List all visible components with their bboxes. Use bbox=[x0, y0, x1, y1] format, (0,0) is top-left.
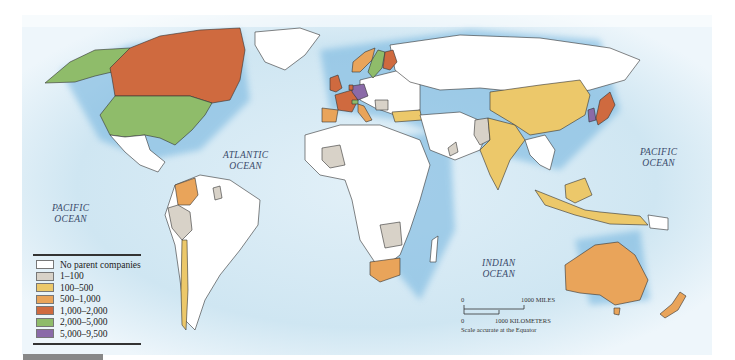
legend-item: No parent companies bbox=[33, 259, 141, 271]
region-tasmania bbox=[614, 308, 620, 315]
legend-item: 5,000–9,500 bbox=[33, 328, 141, 340]
legend-item: 1,000–2,000 bbox=[33, 305, 141, 317]
map-legend: No parent companies 1–100 100–500 500–1,… bbox=[33, 254, 141, 345]
ocean-label-pacific-east: PACIFIC OCEAN bbox=[640, 147, 677, 169]
scale-zero-miles: 0 bbox=[461, 296, 464, 303]
region-switzerland bbox=[352, 100, 358, 104]
scale-zero-km: 0 bbox=[461, 317, 464, 324]
legend-swatch bbox=[36, 306, 54, 315]
scale-bar-lines bbox=[463, 304, 525, 316]
ocean-label-line: OCEAN bbox=[482, 269, 515, 280]
legend-label: 1,000–2,000 bbox=[60, 306, 108, 316]
region-spain bbox=[322, 108, 338, 122]
legend-swatch bbox=[36, 260, 54, 269]
scale-bar: 0 1000 MILES 0 1000 KILOMETERS Scale acc… bbox=[461, 296, 571, 336]
ocean-label-line: PACIFIC bbox=[640, 147, 677, 158]
footer-bar bbox=[23, 354, 103, 360]
region-papua bbox=[648, 215, 668, 230]
legend-label: 1–100 bbox=[60, 271, 84, 281]
legend-swatch bbox=[36, 272, 54, 281]
legend-label: 2,000–5,000 bbox=[60, 317, 108, 327]
scale-miles-label: 1000 MILES bbox=[521, 296, 555, 303]
legend-item: 500–1,000 bbox=[33, 294, 141, 306]
region-balkans bbox=[375, 100, 388, 110]
legend-swatch bbox=[36, 295, 54, 304]
ocean-label-line: INDIAN bbox=[482, 258, 515, 269]
ocean-label-line: ATLANTIC bbox=[223, 150, 268, 161]
legend-swatch bbox=[36, 329, 54, 338]
legend-label: 100–500 bbox=[60, 283, 93, 293]
legend-item: 2,000–5,000 bbox=[33, 317, 141, 329]
legend-label: 5,000–9,500 bbox=[60, 329, 108, 339]
ocean-label-line: OCEAN bbox=[640, 158, 677, 169]
region-guyana bbox=[213, 186, 222, 200]
ocean-label-pacific-west: PACIFIC OCEAN bbox=[52, 203, 89, 225]
region-netherlands bbox=[349, 85, 353, 90]
legend-label: 500–1,000 bbox=[60, 294, 100, 304]
region-chile bbox=[181, 240, 188, 330]
legend-swatch bbox=[36, 318, 54, 327]
legend-swatch bbox=[36, 283, 54, 292]
scale-km-label: 1000 KILOMETERS bbox=[495, 317, 551, 324]
scale-note: Scale accurate at the Equator bbox=[461, 326, 536, 333]
ocean-label-line: OCEAN bbox=[223, 161, 268, 172]
legend-item: 1–100 bbox=[33, 271, 141, 283]
ocean-label-line: PACIFIC bbox=[52, 203, 89, 214]
ocean-label-line: OCEAN bbox=[52, 214, 89, 225]
legend-label: No parent companies bbox=[60, 260, 141, 270]
region-turkey bbox=[392, 110, 422, 122]
legend-item: 100–500 bbox=[33, 282, 141, 294]
ocean-label-indian: INDIAN OCEAN bbox=[482, 258, 515, 280]
ocean-label-atlantic: ATLANTIC OCEAN bbox=[223, 150, 268, 172]
